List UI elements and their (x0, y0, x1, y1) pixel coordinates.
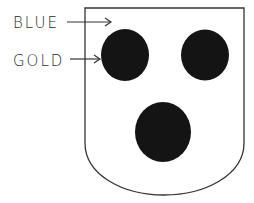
roundel-top-right (181, 30, 229, 81)
roundel-bottom (135, 102, 191, 162)
label-gold: GOLD (13, 52, 64, 70)
label-blue: BLUE (13, 14, 59, 32)
roundel-top-left (101, 29, 149, 81)
shield-diagram: BLUE GOLD (0, 0, 254, 203)
